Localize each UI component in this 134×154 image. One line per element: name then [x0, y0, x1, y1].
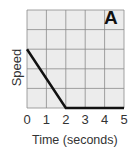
x-tick-label: 5 [120, 112, 127, 127]
x-tick-label: 0 [23, 112, 30, 127]
x-tick-label: 4 [101, 112, 108, 127]
chart-title: A [104, 7, 118, 29]
x-axis-label: Time (seconds) [32, 133, 118, 147]
x-tick-label: 3 [82, 112, 89, 127]
x-tick-label: 1 [43, 112, 50, 127]
y-axis-label: Speed [9, 49, 24, 87]
x-tick-label: 2 [62, 112, 69, 127]
